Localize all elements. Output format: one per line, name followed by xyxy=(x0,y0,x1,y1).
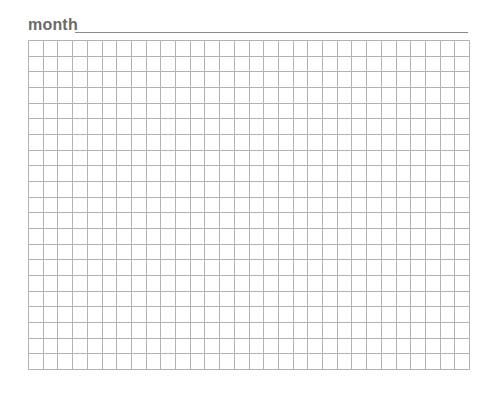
grid-lines xyxy=(28,40,470,370)
month-field-underline[interactable] xyxy=(75,32,468,33)
header: month xyxy=(28,16,469,34)
grid-area xyxy=(28,40,470,370)
month-label: month xyxy=(28,16,78,34)
